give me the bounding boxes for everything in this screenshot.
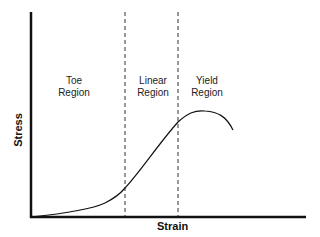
linear-label-line2: Region xyxy=(130,87,176,99)
yield-region-label: Yield Region xyxy=(184,75,230,99)
x-axis-label: Strain xyxy=(157,220,188,232)
linear-region-label: Linear Region xyxy=(130,75,176,99)
yield-label-line2: Region xyxy=(184,87,230,99)
yield-label-line1: Yield xyxy=(184,75,230,87)
stress-strain-plot xyxy=(0,0,320,237)
stress-strain-curve xyxy=(31,111,233,217)
toe-label-line2: Region xyxy=(50,87,98,99)
toe-label-line1: Toe xyxy=(50,75,98,87)
y-axis-label: Stress xyxy=(12,108,24,152)
linear-label-line1: Linear xyxy=(130,75,176,87)
toe-region-label: Toe Region xyxy=(50,75,98,99)
